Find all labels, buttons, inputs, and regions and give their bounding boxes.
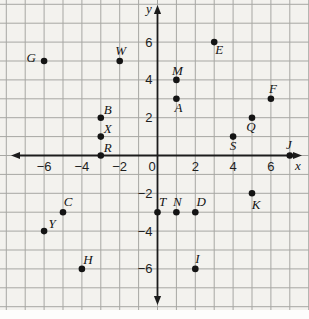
y-tick-label: −2 <box>138 186 153 201</box>
point-label-B: B <box>104 102 112 117</box>
data-point-G <box>41 58 48 65</box>
point-label-F: F <box>268 81 278 96</box>
data-point-Y <box>41 228 48 235</box>
point-label-T: T <box>159 194 167 209</box>
bottom-margin <box>0 310 309 319</box>
x-tick-label: 4 <box>229 159 236 174</box>
x-tick-label: −4 <box>74 159 89 174</box>
point-label-M: M <box>171 63 184 78</box>
point-label-K: K <box>251 197 262 212</box>
point-label-X: X <box>103 121 113 136</box>
y-tick-label: 4 <box>145 72 152 87</box>
point-label-D: D <box>196 194 207 209</box>
data-point-D <box>192 209 199 216</box>
point-label-G: G <box>26 50 36 65</box>
data-point-N <box>173 209 180 216</box>
data-point-J <box>287 152 294 159</box>
x-tick-label: −2 <box>112 159 127 174</box>
coordinate-grid-figure: −6−4−20246642−2−4−6yxGWEMAFBXRQSJCYTNDKH… <box>0 0 309 319</box>
point-label-Q: Q <box>246 119 256 134</box>
y-tick-label: 6 <box>145 35 152 50</box>
point-label-N: N <box>172 194 183 209</box>
point-label-R: R <box>103 140 112 155</box>
data-point-F <box>268 96 275 103</box>
data-point-I <box>192 266 199 273</box>
y-tick-label: −6 <box>138 261 153 276</box>
y-axis-label: y <box>144 1 152 16</box>
point-label-A: A <box>173 100 182 115</box>
point-label-C: C <box>64 194 73 209</box>
x-tick-label: −6 <box>37 159 52 174</box>
data-point-C <box>60 209 67 216</box>
point-label-W: W <box>115 43 127 58</box>
x-tick-label: 0 <box>148 159 155 174</box>
point-label-I: I <box>194 251 200 266</box>
point-label-E: E <box>214 42 223 57</box>
data-point-W <box>116 58 123 65</box>
x-tick-label: 6 <box>267 159 274 174</box>
x-axis-label: x <box>294 158 301 173</box>
y-tick-label: 2 <box>145 110 152 125</box>
data-point-K <box>249 190 256 197</box>
x-tick-label: 2 <box>192 159 199 174</box>
y-tick-label: −4 <box>138 224 153 239</box>
point-label-H: H <box>82 252 93 267</box>
data-point-T <box>154 209 161 216</box>
scatter-plot-svg: −6−4−20246642−2−4−6yxGWEMAFBXRQSJCYTNDKH… <box>0 0 309 319</box>
point-label-S: S <box>230 138 237 153</box>
